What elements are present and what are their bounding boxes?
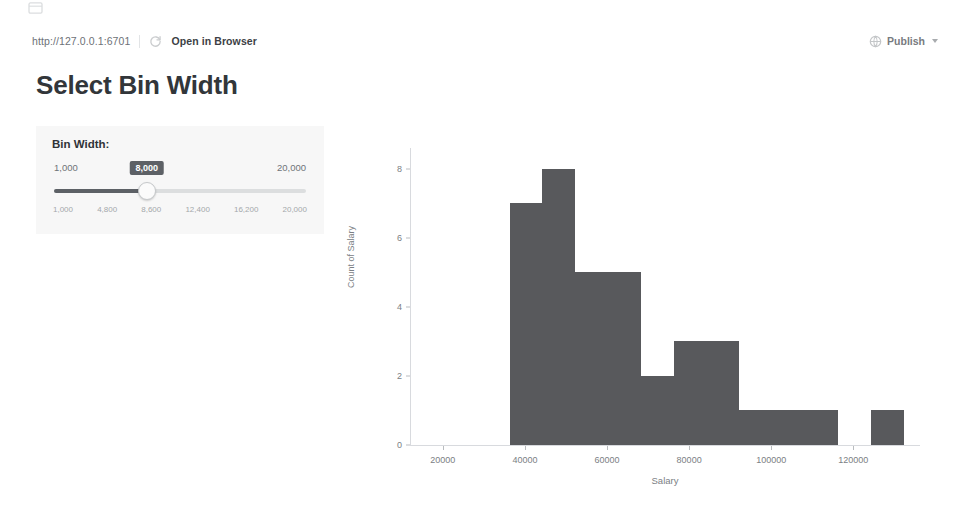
slider-tick-label: 4,800 xyxy=(97,205,117,214)
histogram-bar xyxy=(641,376,674,445)
x-tick-mark xyxy=(525,446,526,450)
publish-icon xyxy=(869,35,882,48)
slider-range-row: 1,000 8,000 20,000 xyxy=(52,162,308,177)
y-tick-mark xyxy=(406,237,410,238)
plot-area: 02468 20000400006000080000100000120000 xyxy=(410,148,920,446)
y-tick-mark xyxy=(406,445,410,446)
window-icon xyxy=(28,2,43,15)
slider-min-label: 1,000 xyxy=(54,162,78,173)
open-in-browser-button[interactable]: Open in Browser xyxy=(171,35,257,47)
slider-thumb[interactable] xyxy=(138,182,156,200)
histogram-bar xyxy=(739,410,772,445)
histogram-bar xyxy=(871,410,904,445)
slider-track[interactable] xyxy=(54,189,306,193)
x-tick-mark xyxy=(689,446,690,450)
toolbar-divider xyxy=(139,35,140,48)
slider-tick-label: 8,600 xyxy=(141,205,161,214)
slider-tick-label: 1,000 xyxy=(53,205,73,214)
x-tick-mark xyxy=(443,446,444,450)
y-tick-mark xyxy=(406,306,410,307)
histogram-bar xyxy=(575,272,608,445)
y-tick-mark xyxy=(406,375,410,376)
bin-width-label: Bin Width: xyxy=(52,138,308,150)
toolbar-left-group: http://127.0.0.1:6701 Open in Browser xyxy=(32,35,257,48)
x-tick-mark xyxy=(771,446,772,450)
histogram-bar xyxy=(608,272,641,445)
slider-tick-label: 20,000 xyxy=(283,205,307,214)
histogram-bar xyxy=(805,410,838,445)
histogram-bar xyxy=(542,169,575,445)
y-tick-mark xyxy=(406,168,410,169)
x-tick-mark xyxy=(853,446,854,450)
slider-max-label: 20,000 xyxy=(277,162,306,173)
histogram-bar xyxy=(674,341,707,445)
histogram-bar xyxy=(772,410,805,445)
histogram-bar xyxy=(510,203,543,445)
slider-tick-label: 16,200 xyxy=(234,205,258,214)
bars-layer xyxy=(411,148,920,445)
slider-track-row[interactable] xyxy=(52,181,308,203)
slider-track-fill xyxy=(54,189,147,193)
app-window: http://127.0.0.1:6701 Open in Browser Pu… xyxy=(0,0,956,519)
publish-button[interactable]: Publish xyxy=(869,35,938,48)
histogram-bar xyxy=(707,341,740,445)
address-url[interactable]: http://127.0.0.1:6701 xyxy=(32,35,130,47)
bin-width-slider-panel: Bin Width: 1,000 8,000 20,000 1,000 4,80… xyxy=(36,126,324,234)
viewer-toolbar: http://127.0.0.1:6701 Open in Browser Pu… xyxy=(0,28,956,54)
y-axis-title: Count of Salary xyxy=(346,226,356,288)
refresh-icon[interactable] xyxy=(149,35,162,48)
salary-histogram: Count of Salary 02468 200004000060000800… xyxy=(348,140,938,505)
x-axis-title: Salary xyxy=(410,475,920,486)
chevron-down-icon[interactable] xyxy=(932,39,938,43)
publish-label: Publish xyxy=(887,35,925,47)
slider-value-bubble: 8,000 xyxy=(129,161,164,175)
slider-tick-label: 12,400 xyxy=(185,205,209,214)
x-tick-mark xyxy=(607,446,608,450)
slider-tick-labels: 1,000 4,800 8,600 12,400 16,200 20,000 xyxy=(52,205,308,214)
page-title: Select Bin Width xyxy=(36,70,238,101)
